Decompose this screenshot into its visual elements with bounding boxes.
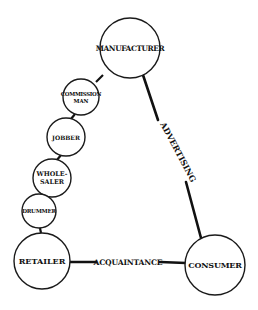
advertising-line-upper — [143, 75, 158, 120]
acquaintance-label: ACQUAINTANCE — [93, 258, 163, 267]
node-jobber: JOBBER — [47, 118, 85, 156]
link-manufacturer-commission — [96, 75, 103, 82]
consumer-label: CONSUMER — [188, 260, 242, 270]
jobber-label: JOBBER — [51, 134, 81, 142]
node-retailer: RETAILER — [14, 233, 70, 289]
link-drummer-retailer — [40, 228, 41, 233]
commission-man-label-line1: COMMISSION — [61, 91, 102, 97]
node-commission-man: COMMISSION MAN — [61, 79, 102, 115]
edge-advertising: ADVERTISING — [143, 75, 201, 238]
manufacturer-label: MANUFACTURER — [96, 44, 166, 53]
commission-man-circle — [63, 79, 99, 115]
wholesaler-label-line1: WHOLE- — [36, 170, 68, 178]
node-wholesaler: WHOLE- SALER — [33, 159, 71, 197]
edge-acquaintance: ACQUAINTANCE — [70, 258, 186, 267]
distribution-triangle-diagram: ADVERTISING ACQUAINTANCE MANUFACTURER CO… — [0, 0, 258, 310]
commission-man-label-line2: MAN — [73, 98, 88, 104]
node-drummer: DRUMMER — [22, 194, 56, 228]
drummer-label: DRUMMER — [22, 208, 56, 214]
advertising-line-lower — [186, 182, 201, 238]
node-consumer: CONSUMER — [185, 235, 245, 295]
acquaintance-line-right — [160, 262, 186, 263]
advertising-label: ADVERTISING — [158, 119, 199, 183]
retailer-label: RETAILER — [19, 256, 66, 266]
node-manufacturer: MANUFACTURER — [96, 18, 166, 78]
wholesaler-label-line2: SALER — [40, 178, 65, 186]
